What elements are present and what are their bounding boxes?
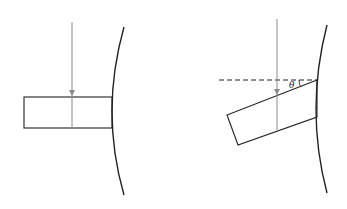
panel-tilted: θ xyxy=(219,19,327,193)
block-horizontal xyxy=(24,97,112,128)
angle-arc xyxy=(299,80,301,87)
diagram-canvas: θ xyxy=(0,0,347,209)
block-tilted xyxy=(227,80,317,145)
wall-arc-left xyxy=(112,27,124,195)
wall-arc-right xyxy=(316,25,327,193)
angle-label-theta: θ xyxy=(289,80,295,90)
panel-untilted xyxy=(24,22,124,195)
